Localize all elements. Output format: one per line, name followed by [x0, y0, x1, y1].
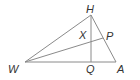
label-p: P	[106, 30, 114, 42]
label-h: H	[86, 3, 94, 15]
label-w: W	[8, 63, 20, 75]
label-a: A	[116, 63, 124, 75]
triangle-diagram: H X P W Q A	[0, 0, 140, 80]
label-x: X	[78, 29, 87, 41]
label-q: Q	[86, 63, 95, 75]
